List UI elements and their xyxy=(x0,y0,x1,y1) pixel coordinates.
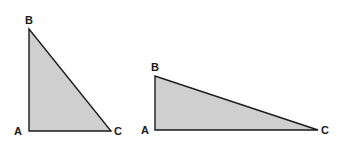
left-label-c: C xyxy=(114,125,122,137)
left-label-a: A xyxy=(14,125,22,137)
right-label-c: C xyxy=(321,124,329,136)
left-triangle xyxy=(29,29,111,131)
left-label-b: B xyxy=(25,14,33,26)
triangles-diagram: B A C B A C xyxy=(0,0,346,149)
right-label-a: A xyxy=(141,124,149,136)
right-triangle xyxy=(155,76,318,130)
right-label-b: B xyxy=(151,61,159,73)
